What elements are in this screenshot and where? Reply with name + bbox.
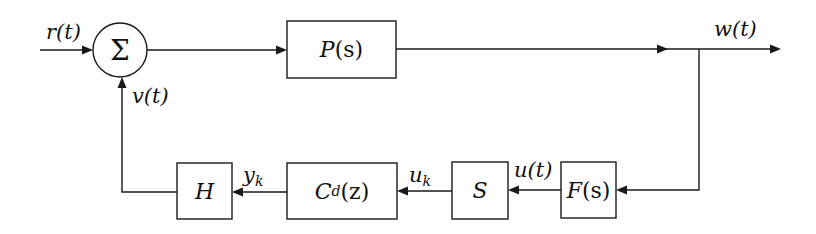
controller-output-subscript: k — [255, 173, 263, 189]
hold-block-name: H — [195, 179, 214, 204]
arrowhead-icon — [397, 187, 408, 196]
filtered-signal-label: u(t) — [514, 160, 552, 181]
hold-block: H — [177, 163, 232, 219]
arrowhead-icon — [276, 46, 287, 55]
controller-block-subscript: d — [332, 183, 341, 199]
arrowhead-icon — [508, 186, 519, 195]
arrowhead-icon — [657, 45, 668, 54]
filter-block-name: F — [567, 178, 582, 203]
controller-block-arg: (z) — [341, 179, 370, 204]
filter-block-arg: (s) — [582, 178, 610, 203]
controller-output-label: yk — [243, 165, 263, 188]
arrowhead-icon — [616, 186, 627, 195]
output-arrowhead-icon — [770, 45, 781, 54]
controller-block: Cd(z) — [287, 163, 397, 219]
controller-block-name: C — [315, 179, 332, 204]
output-signal-label: w(t) — [714, 19, 757, 40]
sampler-block: S — [452, 162, 508, 219]
plant-block: P(s) — [287, 21, 396, 78]
filter-block: F(s) — [561, 162, 616, 218]
sampler-block-name: S — [472, 178, 487, 203]
sampled-signal-label: uk — [409, 165, 431, 188]
plant-block-arg: (s) — [335, 37, 363, 62]
arrowhead-icon — [82, 46, 93, 55]
feedback-signal-label: v(t) — [132, 86, 169, 107]
input-signal-label: r(t) — [46, 22, 81, 43]
sampled-signal-name: u — [409, 163, 423, 187]
feedback-branch-line — [624, 49, 699, 190]
summation-symbol: Σ — [93, 23, 147, 77]
arrowhead-icon — [118, 77, 127, 88]
sampled-signal-subscript: k — [423, 173, 431, 189]
arrowhead-icon — [232, 188, 243, 197]
controller-output-name: y — [243, 163, 255, 187]
plant-block-name: P — [320, 37, 335, 62]
